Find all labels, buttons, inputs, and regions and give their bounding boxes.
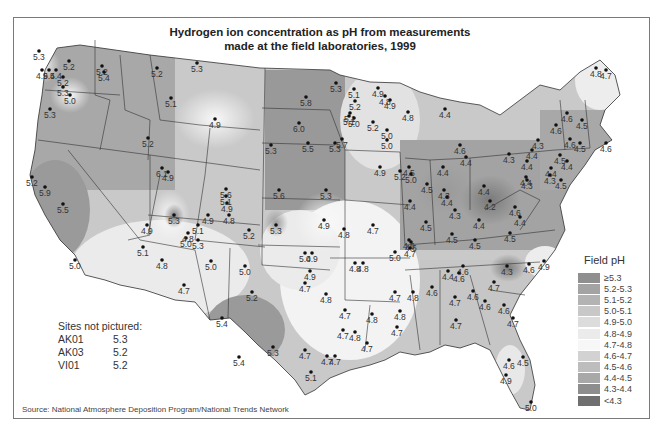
site-id: AK01: [58, 333, 113, 346]
legend-item: 4.7-4.8: [578, 339, 648, 350]
station-ph-label: 5.5: [57, 205, 69, 215]
station-ph-label: 5.3: [270, 226, 282, 236]
station-ph-label: 5.8: [300, 98, 312, 108]
station-ph-label: 4.8: [394, 312, 406, 322]
station-ph-label: 4.9: [141, 226, 153, 236]
station-ph-label: 5.5: [302, 144, 314, 154]
station-ph-label: 5.0: [389, 253, 401, 263]
station-ph-label: 4.9: [221, 204, 233, 214]
station-ph-label: 4.3: [503, 155, 515, 165]
station-ph-label: 4.5: [421, 185, 433, 195]
station-ph-label: 5.3: [320, 191, 332, 201]
station-ph-label: 4.7: [600, 71, 612, 81]
station-ph-label: 4.7: [339, 311, 351, 321]
station-ph-label: 4.6: [454, 146, 466, 156]
station-ph-label: 5.6: [273, 191, 285, 201]
station-ph-label: 4.7: [337, 331, 349, 341]
station-ph-label: 4.9: [538, 262, 550, 272]
station-ph-label: 4.6: [550, 126, 562, 136]
station-ph-label: 4.6: [479, 302, 491, 312]
station-ph-label: 5.1: [137, 248, 149, 258]
station-ph-label: 4.9: [202, 216, 214, 226]
station-ph-label: 5.3: [191, 64, 203, 74]
legend-item: 4.5-4.6: [578, 362, 648, 373]
station-ph-label: 4.7: [488, 283, 500, 293]
station-ph-label: 5.2: [394, 172, 406, 182]
station-ph-label: 5.3: [330, 84, 342, 94]
legend-label: <4.3: [604, 396, 622, 406]
station-ph-label: 4.4: [514, 218, 526, 228]
station-ph-label: 4.7: [299, 351, 311, 361]
station-ph-label: 5.3: [267, 348, 279, 358]
site-id: VI01: [58, 359, 113, 372]
station-ph-label: 5.2: [246, 293, 258, 303]
station-ph-label: 4.5: [555, 181, 567, 191]
legend-swatch: [578, 340, 600, 350]
station-ph-label: 4.5: [576, 121, 588, 131]
station-ph-label: 4.8: [357, 264, 369, 274]
legend-label: ≥5.3: [604, 273, 621, 283]
legend-swatch: [578, 329, 600, 339]
site-value: 5.2: [113, 346, 128, 359]
station-ph-label: 4.6: [523, 265, 535, 275]
station-ph-label: 4.7: [450, 321, 462, 331]
legend-item: 4.3-4.4: [578, 384, 648, 395]
station-ph-label: 5.2: [63, 62, 75, 72]
station-ph-label: 4.6: [498, 306, 510, 316]
legend-items: ≥5.35.2-5.35.1-5.25.0-5.14.9-5.04.8-4.94…: [578, 272, 648, 406]
sites-not-pictured: Sites not pictured: AK01 5.3 AK03 5.2 VI…: [58, 320, 142, 372]
station-ph-label: 4.9: [304, 272, 316, 282]
station-ph-label: 5.4: [233, 358, 245, 368]
station-ph-label: 4.7: [299, 284, 311, 294]
station-ph-label: 4.5: [446, 235, 458, 245]
station-ph-label: 5.0: [405, 175, 417, 185]
station-ph-label: 4.4: [473, 221, 485, 231]
station-ph-label: 5.1: [343, 117, 355, 127]
station-ph-label: 4.8: [223, 216, 235, 226]
station-ph-label: 4.4: [478, 187, 490, 197]
station-ph-label: 4.5: [574, 144, 586, 154]
legend-swatch: [578, 317, 600, 327]
legend-item: 4.8-4.9: [578, 328, 648, 339]
legend-swatch: [578, 396, 600, 406]
station-ph-label: 4.5: [517, 358, 529, 368]
station-ph-label: 5.4: [98, 73, 110, 83]
station-ph-label: 6.0: [293, 124, 305, 134]
legend-label: 5.0-5.1: [604, 306, 632, 316]
station-ph-label: 4.6: [600, 144, 612, 154]
sites-title: Sites not pictured:: [58, 320, 142, 332]
station-ph-label: 4.8: [156, 261, 168, 271]
station-ph-label: 4.6: [426, 288, 438, 298]
station-ph-label: 5.2: [243, 231, 255, 241]
station-ph-label: 5.0: [64, 96, 76, 106]
map-title: Hydrogen ion concentration as pH from me…: [150, 25, 490, 53]
station-ph-label: 4.7: [391, 328, 403, 338]
station-ph-label: 4.4: [437, 168, 449, 178]
station-ph-label: 5.2: [367, 123, 379, 133]
legend-swatch: [578, 373, 600, 383]
station-ph-label: 4.7: [361, 344, 373, 354]
station-ph-label: 4.6: [503, 361, 515, 371]
station-ph-label: 5.9: [39, 188, 51, 198]
station-ph-label: 5.0: [299, 254, 311, 264]
station-ph-label: 4.9: [209, 120, 221, 130]
station-ph-label: 5.0: [239, 267, 251, 277]
station-ph-label: 4.9: [374, 168, 386, 178]
legend-item: 5.1-5.2: [578, 294, 648, 305]
station-ph-label: 4.7: [178, 286, 190, 296]
station-ph-label: 5.3: [44, 110, 56, 120]
legend-label: 4.7-4.8: [604, 340, 632, 350]
station-ph-label: 4.5: [469, 241, 481, 251]
legend-title: Field pH: [584, 254, 648, 266]
legend-swatch: [578, 306, 600, 316]
station-ph-label: 4.9: [500, 376, 512, 386]
station-ph-label: 5.0: [525, 403, 537, 413]
station-ph-label: 4.6: [453, 274, 465, 284]
site-id: AK03: [58, 346, 113, 359]
station-ph-label: 4.5: [420, 223, 432, 233]
station-ph-label: 4.3: [449, 211, 461, 221]
site-value: 5.2: [113, 359, 128, 372]
station-ph-label: 4.6: [561, 114, 573, 124]
legend-swatch: [578, 384, 600, 394]
station-ph-label: 4.8: [320, 295, 332, 305]
